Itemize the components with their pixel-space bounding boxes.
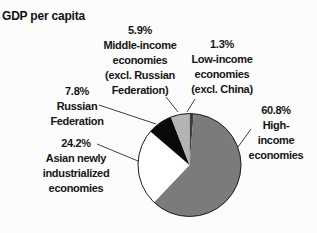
figure: GDP per capita 5.9% Middle-income econom… — [0, 0, 317, 233]
callout-middle-income: 5.9% Middle-income economies (excl. Russ… — [103, 23, 176, 98]
leader-line-low-income — [187, 99, 195, 112]
callout-low-income: 1.3% Low-income economies (excl. China) — [191, 37, 253, 97]
pie-chart — [138, 114, 241, 217]
callout-high-income: 60.8% High-income economies — [249, 103, 304, 163]
callout-asian-nie: 24.2% Asian newly industrialized economi… — [43, 136, 110, 196]
leader-line-russian-federation — [99, 105, 156, 124]
leader-line-middle-income — [166, 97, 178, 112]
callout-russian-federation: 7.8% Russian Federation — [50, 84, 103, 129]
